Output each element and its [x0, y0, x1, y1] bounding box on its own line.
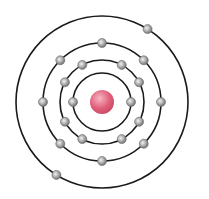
- electron: [117, 135, 126, 144]
- electron: [52, 170, 61, 179]
- electron: [69, 98, 78, 107]
- electron: [56, 56, 65, 65]
- electron: [98, 157, 107, 166]
- electron: [139, 139, 148, 148]
- electron: [56, 139, 65, 148]
- atom-diagram: [0, 0, 209, 199]
- electron: [157, 98, 166, 107]
- electron: [139, 56, 148, 65]
- electron: [127, 98, 136, 107]
- electron: [135, 78, 144, 87]
- electron: [60, 117, 69, 126]
- electron: [98, 39, 107, 48]
- nucleus: [90, 90, 114, 114]
- electron: [78, 60, 87, 69]
- electron: [60, 78, 69, 87]
- electron: [117, 60, 126, 69]
- electron: [39, 98, 48, 107]
- electron: [78, 135, 87, 144]
- electron: [143, 25, 152, 34]
- electron: [135, 117, 144, 126]
